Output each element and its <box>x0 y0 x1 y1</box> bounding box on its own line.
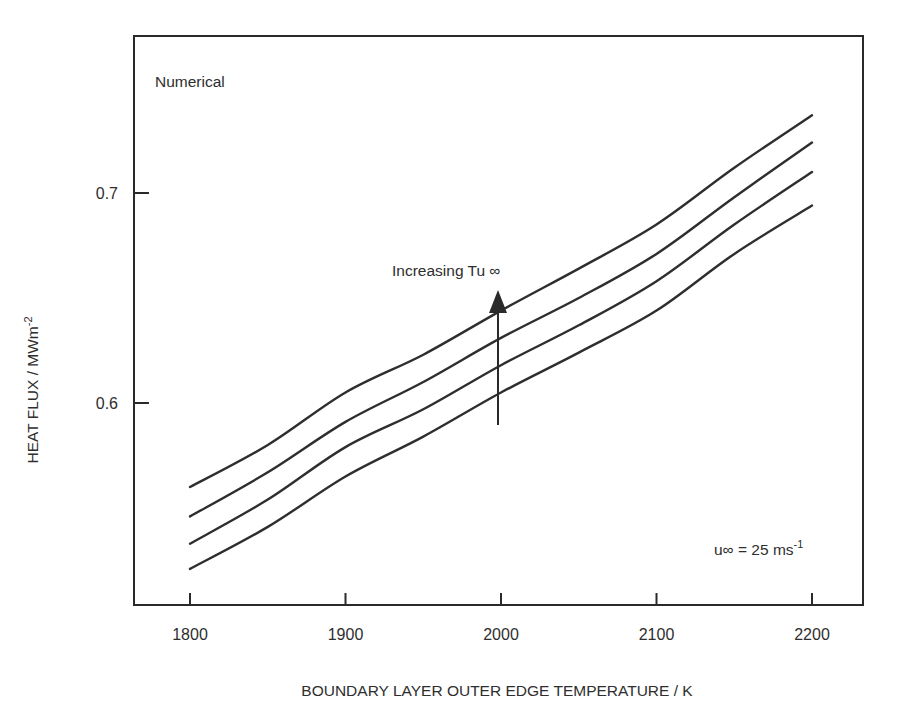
x-tick-label: 2100 <box>639 626 675 643</box>
heat-flux-chart: 0.60.7 18001900200021002200 Numerical In… <box>0 0 898 721</box>
arrow-up-icon <box>489 290 507 313</box>
x-tick-label: 1800 <box>172 626 208 643</box>
velocity-main: u∞ = 25 ms <box>714 541 794 558</box>
y-axis-title-superscript: -2 <box>22 317 34 327</box>
x-tick-label: 2200 <box>794 626 830 643</box>
panel-label: Numerical <box>155 73 225 90</box>
y-tick-label: 0.6 <box>96 395 118 412</box>
y-axis-title: HEAT FLUX / MWm-2 <box>22 317 41 464</box>
heat-flux-curve-2 <box>190 143 812 517</box>
velocity-superscript: -1 <box>794 538 804 550</box>
heat-flux-curve-3 <box>190 172 812 544</box>
y-axis-title-main: HEAT FLUX / MWm <box>24 326 41 463</box>
y-axis-ticks: 0.60.7 <box>96 185 149 412</box>
x-tick-label: 1900 <box>328 626 364 643</box>
y-tick-label: 0.7 <box>96 185 118 202</box>
x-axis-title: BOUNDARY LAYER OUTER EDGE TEMPERATURE / … <box>301 682 693 699</box>
data-series <box>190 115 812 569</box>
heat-flux-curve-4 <box>190 206 812 569</box>
x-tick-label: 2000 <box>483 626 519 643</box>
x-axis-ticks: 18001900200021002200 <box>172 593 830 643</box>
velocity-annotation: u∞ = 25 ms-1 <box>714 538 803 558</box>
increasing-tu-label: Increasing Tu ∞ <box>392 262 500 279</box>
